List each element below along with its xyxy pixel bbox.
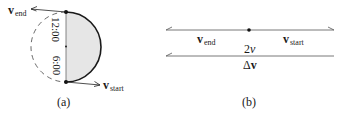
v-start-half-arrowhead-icon [328, 27, 334, 30]
v-start-symbol: v [103, 78, 109, 92]
v-end-symbol: v [8, 3, 14, 17]
delta-symbol: Δ [243, 58, 251, 72]
delta-v-label: Δv [243, 59, 257, 71]
v-start-subscript: start [290, 38, 304, 47]
v-end-half-arrowhead-icon [166, 27, 172, 30]
clock-label-top: 12:00 [50, 17, 61, 42]
delta-v-half-arrowhead-icon [166, 53, 172, 56]
v-end-subscript: end [204, 38, 216, 47]
v-end-arrowhead-icon [31, 7, 37, 12]
caption-a: (a) [57, 96, 70, 108]
v-start-arrow-shaft [66, 82, 100, 85]
v-end-symbol: v [197, 32, 203, 46]
panel-b-v-start-label: vstart [283, 33, 304, 47]
magnitude-label: 2v [244, 43, 255, 55]
panel-a-v-start-label: vstart [103, 79, 124, 93]
panel-b-v-end-label: vend [197, 33, 216, 47]
v-end-subscript: end [15, 9, 27, 18]
v-start-symbol: v [283, 32, 289, 46]
center-dot [65, 46, 67, 48]
panel-a-v-end-label: vend [8, 4, 27, 18]
magnitude-variable: v [250, 42, 255, 56]
delta-v-symbol: v [251, 58, 257, 72]
half-disc-shaded [66, 12, 101, 82]
caption-b: (b) [242, 96, 256, 108]
v-start-arrowhead-icon [94, 82, 100, 87]
clock-label-bottom: 6:00 [51, 56, 62, 76]
v-start-subscript: start [110, 84, 124, 93]
origin-dot [247, 28, 251, 32]
panel-a-graphics [31, 7, 101, 87]
